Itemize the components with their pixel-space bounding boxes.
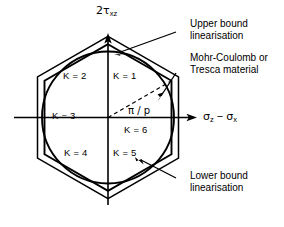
annotation-upper-bound: Upper bound linearisation xyxy=(190,18,248,42)
x-axis-label-operator: − xyxy=(214,110,227,122)
annotation-material: Mohr-Coulomb or Tresca material xyxy=(190,52,268,76)
y-axis xyxy=(104,33,111,205)
annotation-lower-bound-line1: Lower bound xyxy=(190,170,248,182)
annotation-upper-bound-line2: linearisation xyxy=(190,30,248,42)
x-axis-label: σz − σx xyxy=(203,110,237,125)
x-axis-label-sigma-z: σ xyxy=(203,110,210,123)
y-axis-label-subscript: xz xyxy=(110,9,118,18)
sector-label-k4: K = 4 xyxy=(64,147,87,158)
annotation-lower-bound: Lower bound linearisation xyxy=(190,170,248,194)
sector-label-k2: K = 2 xyxy=(63,70,86,81)
annotation-material-line2: Tresca material xyxy=(190,64,268,76)
x-axis-label-subscript-x: x xyxy=(233,115,237,124)
sector-label-k5: K = 5 xyxy=(113,147,136,158)
annotation-upper-bound-line1: Upper bound xyxy=(190,18,248,30)
sector-label-k3: K = 3 xyxy=(52,110,75,121)
angle-label-pi-over-p: π / p xyxy=(128,105,150,117)
annotation-material-line1: Mohr-Coulomb or xyxy=(190,52,268,64)
sector-label-k1: K = 1 xyxy=(113,70,136,81)
sector-label-k6: K = 6 xyxy=(124,124,147,135)
yield-criterion-figure: 2τxz σz − σx K = 1 K = 2 K = 3 K = 4 K =… xyxy=(0,0,284,227)
y-axis-label: 2τxz xyxy=(96,4,117,19)
y-axis-label-main: 2τ xyxy=(96,4,110,17)
annotation-lower-bound-line2: linearisation xyxy=(190,182,248,194)
